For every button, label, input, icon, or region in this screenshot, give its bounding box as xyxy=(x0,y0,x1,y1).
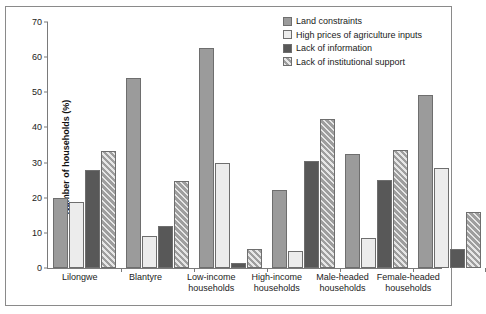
bar-group xyxy=(194,22,267,268)
x-axis-label-line: Male-headed xyxy=(310,272,376,283)
bar xyxy=(288,251,303,268)
bar xyxy=(85,170,100,268)
legend-item: High prices of agriculture inputs xyxy=(283,30,422,40)
bar xyxy=(345,154,360,268)
x-axis-label: Male-headedhouseholds xyxy=(310,272,376,294)
x-axis-label-line: households xyxy=(178,283,244,294)
x-axis-label-line: households xyxy=(310,283,376,294)
bar xyxy=(142,236,157,268)
x-axis-label-line: Low-income xyxy=(178,272,244,283)
bar xyxy=(418,95,433,268)
bar xyxy=(247,249,262,268)
legend-label: High prices of agriculture inputs xyxy=(296,30,422,40)
bar xyxy=(272,190,287,268)
x-axis-label: Lilongwe xyxy=(47,272,113,294)
x-axis-labels: LilongweBlantyreLow-incomehouseholdsHigh… xyxy=(47,272,441,294)
bar xyxy=(69,202,84,268)
legend-swatch-icon xyxy=(283,17,292,26)
bar xyxy=(101,151,116,268)
legend-label: Lack of institutional support xyxy=(296,57,405,67)
bar xyxy=(199,48,214,268)
x-axis-label-line: households xyxy=(375,283,441,294)
x-axis-label: Blantyre xyxy=(113,272,179,294)
chart-legend: Land constraintsHigh prices of agricultu… xyxy=(283,16,422,70)
bar-group xyxy=(121,22,194,268)
bar xyxy=(320,119,335,268)
legend-swatch-icon xyxy=(283,44,292,53)
bar xyxy=(53,198,68,268)
legend-item: Lack of institutional support xyxy=(283,57,422,67)
bar xyxy=(158,226,173,268)
legend-swatch-icon xyxy=(283,30,292,39)
legend-label: Lack of information xyxy=(296,43,372,53)
bar xyxy=(377,180,392,268)
x-axis-label: Low-incomehouseholds xyxy=(178,272,244,294)
bar-group xyxy=(48,22,121,268)
bar xyxy=(393,150,408,268)
bar-group xyxy=(413,22,486,268)
x-axis-label-line: Female-headed xyxy=(375,272,441,283)
x-axis-label: High-incomehouseholds xyxy=(244,272,310,294)
bar xyxy=(434,168,449,268)
bar xyxy=(304,161,319,268)
bar xyxy=(466,212,481,268)
x-axis-label-line: households xyxy=(244,283,310,294)
x-axis-label-line: Blantyre xyxy=(113,272,179,283)
bar xyxy=(231,263,246,268)
x-axis-label-line: Lilongwe xyxy=(47,272,113,283)
x-axis-label: Female-headedhouseholds xyxy=(375,272,441,294)
bar xyxy=(361,238,376,268)
bar xyxy=(450,249,465,268)
legend-item: Land constraints xyxy=(283,16,422,26)
bar xyxy=(174,181,189,268)
legend-swatch-icon xyxy=(283,57,292,66)
bar xyxy=(126,78,141,268)
x-axis-label-line: High-income xyxy=(244,272,310,283)
legend-label: Land constraints xyxy=(296,16,362,26)
bar xyxy=(215,163,230,268)
legend-item: Lack of information xyxy=(283,43,422,53)
